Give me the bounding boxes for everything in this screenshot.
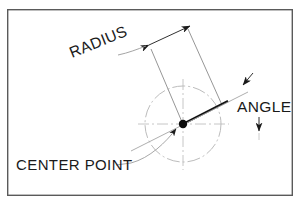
radius-dimension-line [149, 26, 190, 45]
radius-leader-line [118, 46, 146, 55]
label-center-point: CENTER POINT [16, 156, 132, 173]
extension-line-inner [151, 49, 182, 122]
angle-reference-line [131, 92, 248, 151]
extension-lines [151, 29, 222, 122]
angle-upper-arrow [243, 73, 253, 85]
label-angle: ANGLE [237, 98, 292, 115]
diagram-canvas: RADIUS ANGLE CENTER POINT [0, 0, 302, 208]
technical-drawing-svg: RADIUS ANGLE CENTER POINT [0, 0, 302, 208]
extension-line-outer [188, 29, 222, 105]
label-radius: RADIUS [67, 22, 130, 61]
center-point-dot [179, 120, 187, 128]
